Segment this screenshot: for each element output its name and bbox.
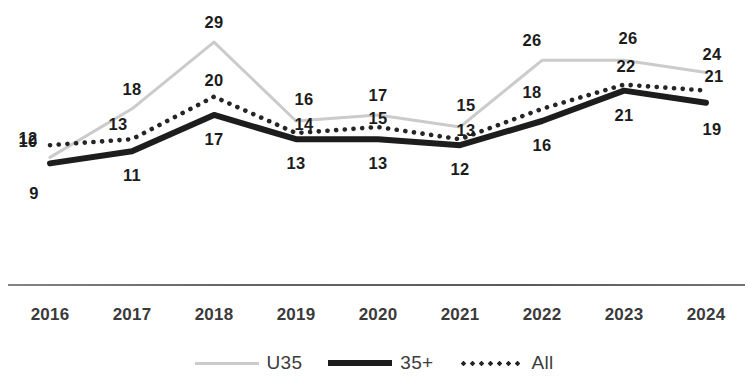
data-label-all-2017: 13 xyxy=(109,115,128,134)
data-label-u35-2017: 18 xyxy=(123,79,142,98)
data-label-u35-2018: 29 xyxy=(205,13,224,32)
x-tick-2024: 2024 xyxy=(666,305,746,325)
data-label-35plus-2024: 19 xyxy=(703,119,722,138)
data-label-35plus-2023: 21 xyxy=(615,105,634,124)
data-label-u35-2022: 26 xyxy=(523,31,542,50)
plot-area: 1018291617152626241213201415131822219111… xyxy=(0,0,748,285)
line-chart: 1018291617152626241213201415131822219111… xyxy=(0,0,748,379)
x-tick-2021: 2021 xyxy=(420,305,500,325)
data-label-u35-2024: 24 xyxy=(703,45,722,64)
data-label-all-2023: 22 xyxy=(617,56,636,75)
dotted-line-swatch-icon xyxy=(459,361,523,366)
data-label-35plus-2021: 12 xyxy=(451,160,470,179)
data-label-35plus-2020: 13 xyxy=(369,154,388,173)
data-label-35plus-2016: 9 xyxy=(29,184,38,203)
light-line-swatch-icon xyxy=(195,362,259,365)
x-tick-2022: 2022 xyxy=(502,305,582,325)
x-tick-2019: 2019 xyxy=(256,305,336,325)
data-label-all-2022: 18 xyxy=(523,82,542,101)
legend-item-all[interactable]: All xyxy=(459,352,553,374)
data-label-u35-2020: 17 xyxy=(369,85,388,104)
x-tick-2018: 2018 xyxy=(174,305,254,325)
data-label-all-2018: 20 xyxy=(205,70,224,89)
data-label-all-2024: 21 xyxy=(705,66,724,85)
legend-item-35plus[interactable]: 35+ xyxy=(328,352,433,374)
x-axis-tick-labels: 201620172018201920202021202220232024 xyxy=(0,305,748,333)
bold-line-swatch-icon xyxy=(328,360,392,366)
chart-legend: U35 35+ All xyxy=(0,348,748,378)
data-label-u35-2023: 26 xyxy=(619,29,638,48)
legend-label-all: All xyxy=(531,352,553,374)
x-axis-line xyxy=(8,284,745,286)
legend-label-35plus: 35+ xyxy=(400,352,433,374)
data-label-all-2016: 12 xyxy=(19,129,38,148)
x-tick-2017: 2017 xyxy=(92,305,172,325)
data-label-u35-2019: 16 xyxy=(295,89,314,108)
x-tick-2016: 2016 xyxy=(10,305,90,325)
data-label-35plus-2022: 16 xyxy=(533,135,552,154)
legend-item-u35[interactable]: U35 xyxy=(195,352,303,374)
data-label-all-2020: 15 xyxy=(369,109,388,128)
data-label-all-2021: 13 xyxy=(457,121,476,140)
x-tick-2020: 2020 xyxy=(338,305,418,325)
data-label-35plus-2018: 17 xyxy=(205,129,224,148)
data-label-u35-2021: 15 xyxy=(457,96,476,115)
x-tick-2023: 2023 xyxy=(584,305,664,325)
data-label-all-2019: 14 xyxy=(295,115,314,134)
legend-label-u35: U35 xyxy=(267,352,303,374)
data-label-35plus-2019: 13 xyxy=(287,154,306,173)
data-label-35plus-2017: 11 xyxy=(123,166,141,185)
